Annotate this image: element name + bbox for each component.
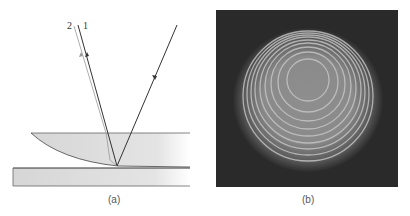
ray-label-1: 1	[83, 20, 88, 31]
caption-a: (a)	[108, 194, 120, 205]
diagram-panel-a: 2 1 (a)	[0, 0, 205, 216]
ray-label-2: 2	[67, 20, 72, 31]
arrow-icon	[152, 75, 157, 80]
curved-lens	[31, 133, 190, 167]
ray-2	[74, 26, 106, 133]
caption-b: (b)	[302, 194, 314, 205]
photo-panel-b: (b)	[205, 0, 410, 216]
newton-rings-photo	[205, 0, 410, 216]
reflection-diagram: 2 1	[0, 0, 205, 216]
flat-plate	[13, 168, 190, 186]
